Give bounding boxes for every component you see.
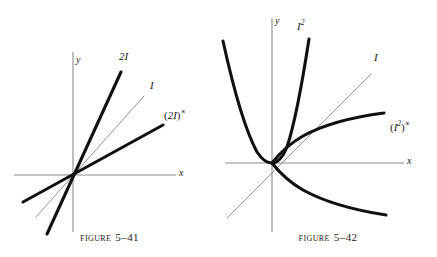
figure-5-42-panel: I2 I (I2)∗ x y Figure5–42 (219, 0, 437, 257)
I-line (36, 96, 144, 217)
label-I: I (150, 80, 154, 91)
label-I: I (374, 52, 378, 63)
figure-5-41-panel: 2I I (2I)∗ x y Figure5–41 (0, 0, 219, 257)
figure-5-41-plot (0, 0, 219, 257)
label-I-squared: I2 (297, 19, 304, 32)
figure-5-42-caption: Figure5–42 (219, 231, 437, 243)
label-two-I-star: (2I)∗ (164, 108, 186, 121)
y-axis-label: y (275, 16, 279, 26)
figure-5-41-caption: Figure5–41 (0, 231, 219, 243)
I-squared-parabola (223, 39, 309, 163)
label-two-I: 2I (119, 51, 128, 62)
x-axis-label: x (179, 168, 183, 178)
label-I-squared-star: (I2)∗ (390, 120, 410, 133)
y-axis-label: y (76, 55, 80, 65)
x-axis-label: x (407, 156, 411, 166)
figure-page: 2I I (2I)∗ x y Figure5–41 (0, 0, 437, 257)
I-squared-star-lower-branch (272, 163, 386, 215)
